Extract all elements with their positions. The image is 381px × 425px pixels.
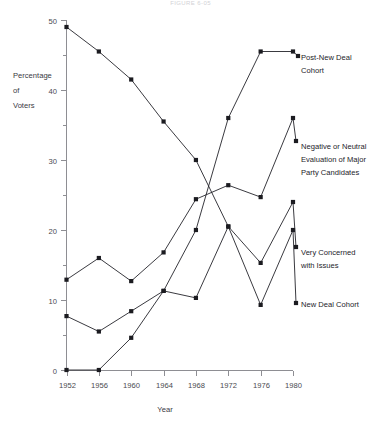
legend-marker-very-concerned-with-issues [294,245,298,249]
y-axis-title-line-2: of [13,86,20,95]
data-point-very-concerned-with-issues-1968 [194,296,198,300]
data-point-new-deal-cohort-1956 [97,49,101,53]
y-axis-title-line-1: Percentage [13,71,52,80]
data-point-new-deal-cohort-1964 [161,119,165,123]
data-point-negative-or-neutral-evaluation-of-major-party-ca-1972 [226,183,230,187]
y-axis-title-line-3: Voters [13,101,35,110]
x-tick-label-1960: 1960 [123,381,140,390]
data-point-negative-or-neutral-evaluation-of-major-party-ca-1964 [161,250,165,254]
data-point-negative-or-neutral-evaluation-of-major-party-ca-1960 [129,279,133,283]
legend-post-new-deal-cohort-line-1: Post-New Deal [301,53,352,62]
x-tick-label-1976: 1976 [253,381,270,390]
y-tick-label-0: 0 [53,367,57,376]
x-axis-ticks [68,371,294,377]
data-point-post-new-deal-cohort-1956 [97,368,101,372]
legend-new-deal-cohort-line-1: New Deal Cohort [301,300,360,309]
data-point-very-concerned-with-issues-1960 [129,309,133,313]
data-point-post-new-deal-cohort-1960 [129,336,133,340]
data-point-post-new-deal-cohort-1972 [226,116,230,120]
data-point-new-deal-cohort-1968 [194,158,198,162]
line-chart-canvas: 01020304050 1952195619601964196819721976… [0,0,381,425]
data-point-new-deal-cohort-1960 [129,77,133,81]
x-axis-tick-labels: 19521956196019641968197219761980 [59,381,302,390]
data-point-new-deal-cohort-1976 [259,303,263,307]
series-line-post-new-deal-cohort [67,52,294,371]
data-point-negative-or-neutral-evaluation-of-major-party-ca-1956 [97,256,101,260]
data-point-negative-or-neutral-evaluation-of-major-party-ca-1952 [64,278,68,282]
data-point-very-concerned-with-issues-1956 [97,329,101,333]
legend-post-new-deal-cohort-line-2: Cohort [301,66,325,75]
x-tick-label-1968: 1968 [188,381,205,390]
y-tick-label-20: 20 [49,227,57,236]
leader-line-negative-neutral-evaluation [293,118,296,141]
legend-very-concerned-line-1: Very Concerned [301,248,355,257]
data-point-post-new-deal-cohort-1968 [194,228,198,232]
data-point-negative-or-neutral-evaluation-of-major-party-ca-1976 [259,195,263,199]
y-tick-label-50: 50 [49,17,57,26]
data-point-very-concerned-with-issues-1952 [64,314,68,318]
data-point-very-concerned-with-issues-1964 [161,289,165,293]
figure-title: FIGURE 6-05 [0,0,381,8]
legend-negative-neutral-line-3: Party Candidates [301,168,359,177]
x-tick-label-1956: 1956 [91,381,108,390]
x-axis-title: Year [157,405,173,414]
data-point-new-deal-cohort-1952 [64,25,68,29]
legend-leader-lines [293,52,300,306]
legend-marker-new-deal-cohort [294,301,298,305]
legend-very-concerned-line-2: with Issues [300,261,339,270]
data-point-very-concerned-with-issues-1972 [226,224,230,228]
legend-negative-neutral-line-1: Negative or Neutral [301,142,367,151]
data-point-post-new-deal-cohort-1952 [64,368,68,372]
chart-figure: FIGURE 6-05 01020304050 1952195619601964… [0,0,381,425]
y-tick-label-30: 30 [49,157,57,166]
legend-negative-neutral-line-2: Evaluation of Major [301,155,366,164]
data-point-post-new-deal-cohort-1976 [259,49,263,53]
y-tick-label-40: 40 [49,87,57,96]
data-point-negative-or-neutral-evaluation-of-major-party-ca-1968 [194,197,198,201]
legend-marker-negative-neutral-evaluation [294,139,298,143]
data-series-layer [64,25,295,372]
data-point-very-concerned-with-issues-1976 [259,261,263,265]
series-line-very-concerned-with-issues [67,202,294,332]
y-tick-label-10: 10 [49,297,57,306]
legend-marker-post-new-deal-cohort [296,54,300,58]
x-tick-label-1952: 1952 [59,381,76,390]
x-tick-label-1980: 1980 [285,381,302,390]
x-tick-label-1972: 1972 [220,381,237,390]
x-tick-label-1964: 1964 [156,381,173,390]
